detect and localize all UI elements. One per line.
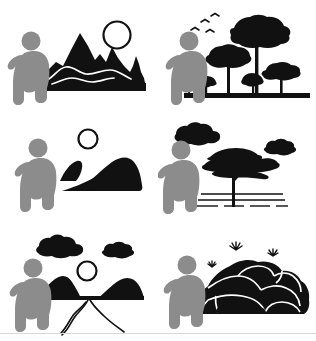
grass-tuft (230, 242, 242, 250)
panel-rock-formation (158, 226, 316, 341)
grass-tuft (208, 261, 216, 267)
panel-mountains-with-sun (0, 0, 158, 115)
crouching-person-silhouette (8, 32, 50, 106)
small-tree (241, 73, 263, 94)
panel-acacia-tree-savanna (158, 115, 316, 226)
hill-right (98, 278, 144, 298)
crouching-person-silhouette (15, 139, 57, 213)
pictogram-grid (0, 0, 316, 341)
cloud-small (102, 242, 134, 259)
river-path (61, 300, 124, 335)
cloud-small (264, 139, 296, 156)
bird-flock (191, 14, 219, 33)
crouching-person-silhouette (164, 256, 206, 330)
sun-circle (79, 130, 98, 149)
acacia-tree (202, 148, 280, 207)
medium-tree (205, 44, 251, 94)
cloud-large (36, 234, 83, 258)
panel-rolling-hills-with-sun (0, 115, 158, 226)
sun-circle (104, 22, 131, 49)
crouching-person-silhouette (158, 141, 199, 215)
sheet-bottom-border (0, 333, 316, 334)
pictogram-sheet (0, 0, 316, 341)
boulder-cluster (194, 260, 309, 314)
crouching-person-silhouette (10, 259, 52, 333)
panel-forest-with-birds (158, 0, 316, 115)
ground-dashes (195, 194, 288, 206)
sun-circle (78, 262, 97, 281)
hill-small (60, 161, 82, 181)
medium-tree (262, 62, 301, 94)
grass-tuft (268, 249, 278, 256)
panel-river-valley (0, 226, 158, 341)
